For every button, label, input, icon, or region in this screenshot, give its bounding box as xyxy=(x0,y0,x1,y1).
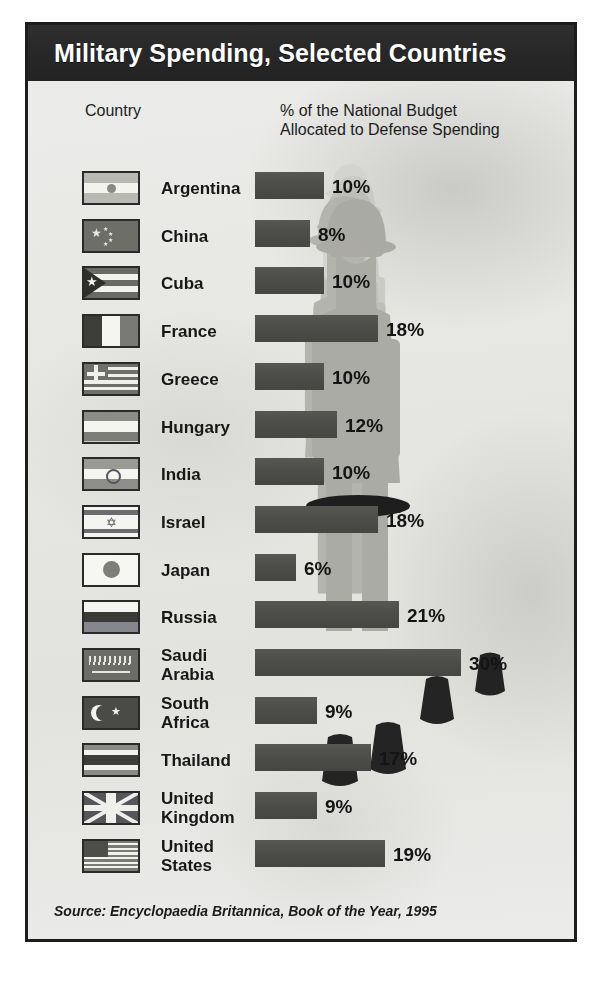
table-row: France18% xyxy=(28,310,574,354)
bar xyxy=(255,649,461,676)
table-row: India10% xyxy=(28,453,574,497)
flag-russia-icon xyxy=(82,600,140,634)
bar-value-label: 18% xyxy=(386,319,424,341)
table-row: ★SouthAfrica9% xyxy=(28,692,574,736)
bar-value-label: 10% xyxy=(332,367,370,389)
table-row: ★★★★★China8% xyxy=(28,215,574,259)
flag-united-kingdom-icon xyxy=(82,791,140,825)
table-row: ✡Israel18% xyxy=(28,501,574,545)
flag-cuba-icon: ★ xyxy=(82,266,140,300)
table-row: Hungary12% xyxy=(28,406,574,450)
flag-united-states-icon xyxy=(82,839,140,873)
country-name: Hungary xyxy=(161,418,230,437)
bar xyxy=(255,458,324,485)
flag-japan-icon xyxy=(82,553,140,587)
bar xyxy=(255,172,324,199)
flag-south-africa-icon: ★ xyxy=(82,696,140,730)
bar xyxy=(255,267,324,294)
country-name: Japan xyxy=(161,561,210,580)
bar xyxy=(255,697,317,724)
bar-value-label: 19% xyxy=(393,844,431,866)
country-name: Cuba xyxy=(161,274,204,293)
country-name-line1: United xyxy=(161,837,214,856)
country-name-line1: Saudi xyxy=(161,646,214,665)
table-row: UnitedStates19% xyxy=(28,835,574,879)
bar-value-label: 8% xyxy=(318,224,345,246)
bar-value-label: 30% xyxy=(469,653,507,675)
country-name: Thailand xyxy=(161,751,231,770)
flag-israel-icon: ✡ xyxy=(82,505,140,539)
country-name: SaudiArabia xyxy=(161,646,214,684)
table-row: UnitedKingdom9% xyxy=(28,787,574,831)
source-note: Source: Encyclopaedia Britannica, Book o… xyxy=(54,903,437,919)
country-name: SouthAfrica xyxy=(161,694,209,732)
table-row: ★Cuba10% xyxy=(28,262,574,306)
bar xyxy=(255,792,317,819)
bar xyxy=(255,554,296,581)
flag-argentina-icon xyxy=(82,171,140,205)
bar-value-label: 12% xyxy=(345,415,383,437)
country-name: Greece xyxy=(161,370,219,389)
country-name: India xyxy=(161,465,201,484)
country-name-line1: United xyxy=(161,789,235,808)
infographic-poster: Military Spending, Selected Countries Co… xyxy=(25,22,577,942)
bar xyxy=(255,506,378,533)
country-name-line2: Kingdom xyxy=(161,808,235,827)
country-name-line1: South xyxy=(161,694,209,713)
country-name-line2: Africa xyxy=(161,713,209,732)
country-name: France xyxy=(161,322,217,341)
flag-greece-icon xyxy=(82,362,140,396)
country-name-line2: Arabia xyxy=(161,665,214,684)
bar-value-label: 9% xyxy=(325,796,352,818)
bar-value-label: 6% xyxy=(304,558,331,580)
chart-rows: Argentina10%★★★★★China8%★Cuba10%France18… xyxy=(28,25,574,939)
bar-value-label: 21% xyxy=(407,605,445,627)
bar-value-label: 10% xyxy=(332,271,370,293)
bar xyxy=(255,363,324,390)
flag-thailand-icon xyxy=(82,743,140,777)
bar xyxy=(255,315,378,342)
bar xyxy=(255,601,399,628)
table-row: Thailand17% xyxy=(28,739,574,783)
flag-saudi-arabia-icon xyxy=(82,648,140,682)
bar-value-label: 10% xyxy=(332,176,370,198)
bar-value-label: 9% xyxy=(325,701,352,723)
table-row: Greece10% xyxy=(28,358,574,402)
table-row: Japan6% xyxy=(28,549,574,593)
bar xyxy=(255,411,337,438)
country-name: Russia xyxy=(161,608,217,627)
country-name: China xyxy=(161,227,208,246)
flag-hungary-icon xyxy=(82,410,140,444)
bar xyxy=(255,744,371,771)
flag-india-icon xyxy=(82,457,140,491)
bar-value-label: 10% xyxy=(332,462,370,484)
country-name: Israel xyxy=(161,513,205,532)
bar xyxy=(255,220,310,247)
table-row: SaudiArabia30% xyxy=(28,644,574,688)
country-name: UnitedStates xyxy=(161,837,214,875)
table-row: Russia21% xyxy=(28,596,574,640)
flag-china-icon: ★★★★★ xyxy=(82,219,140,253)
bar-value-label: 18% xyxy=(386,510,424,532)
country-name: Argentina xyxy=(161,179,240,198)
country-name: UnitedKingdom xyxy=(161,789,235,827)
flag-france-icon xyxy=(82,314,140,348)
bar-value-label: 17% xyxy=(379,748,417,770)
bar xyxy=(255,840,385,867)
country-name-line2: States xyxy=(161,856,214,875)
table-row: Argentina10% xyxy=(28,167,574,211)
